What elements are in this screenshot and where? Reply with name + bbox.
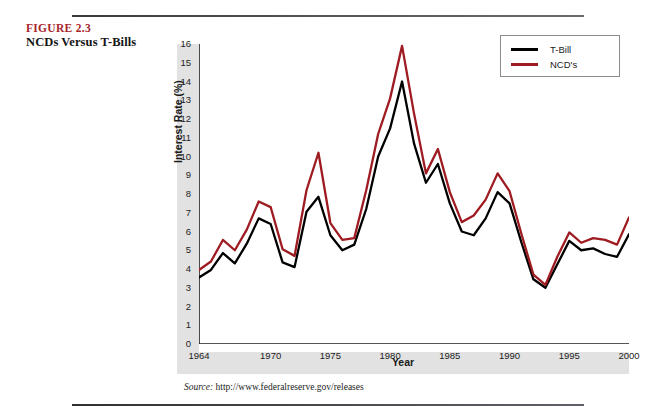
y-tick-label: 13 [175,94,191,105]
y-tick-label: 3 [175,282,191,293]
y-tick-label: 7 [175,207,191,218]
plot-area [199,44,629,344]
legend-swatch-ncd [511,63,538,66]
x-tick-label: 1995 [549,350,589,361]
x-tick-label: 1964 [179,350,219,361]
legend-entry-ncd: NCD's [511,57,619,72]
y-tick-label: 1 [175,319,191,330]
y-tick-label: 16 [175,38,191,49]
bottom-rule [72,404,584,406]
legend-label-tbill: T-Bill [550,44,571,55]
x-tick-label: 1985 [430,350,470,361]
y-tick-label: 0 [175,338,191,349]
y-tick-label: 4 [175,263,191,274]
y-tick-label: 2 [175,301,191,312]
legend-swatch-tbill [511,48,538,51]
y-tick-label: 6 [175,226,191,237]
x-tick-label: 1990 [490,350,530,361]
x-tick-label: 1970 [251,350,291,361]
y-tick-label: 11 [175,132,191,143]
y-tick-label: 10 [175,151,191,162]
x-tick-label: 1975 [310,350,350,361]
y-tick-label: 12 [175,113,191,124]
figure-caption: NCDs Versus T-Bills [26,35,136,50]
chart-svg [199,44,629,344]
legend-entry-tbill: T-Bill [511,42,619,57]
top-rule [72,15,584,17]
figure-number: FIGURE 2.3 [26,22,91,34]
y-tick-label: 15 [175,57,191,68]
y-tick-label: 8 [175,188,191,199]
y-tick-label: 5 [175,244,191,255]
y-tick-label: 14 [175,76,191,87]
source-note: Source: http://www.federalreserve.gov/re… [184,382,364,392]
chart-legend: T-Bill NCD's [500,35,620,77]
x-tick-label: 1980 [370,350,410,361]
figure-root: FIGURE 2.3 NCDs Versus T-Bills Interest … [0,0,659,418]
y-tick-label: 9 [175,169,191,180]
x-tick-label: 2000 [609,350,649,361]
legend-label-ncd: NCD's [550,59,577,70]
source-url: http://www.federalreserve.gov/releases [216,382,364,392]
source-prefix: Source: [184,382,213,392]
